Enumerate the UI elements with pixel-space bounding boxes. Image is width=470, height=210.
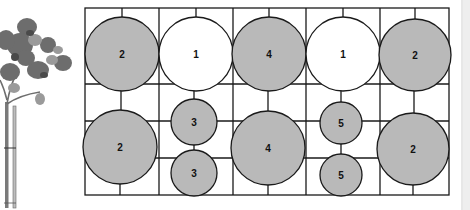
plant-circle-c3: 4: [232, 17, 306, 91]
plant-circle-c8: 3: [171, 150, 217, 196]
plant-circle-c10: 5: [320, 102, 362, 144]
plant-circle-c5: 2: [379, 19, 451, 91]
plant-label: 4: [266, 49, 272, 60]
plant-label: 3: [191, 168, 197, 179]
plant-label: 2: [119, 49, 125, 60]
planting-diagram: 214122334552: [0, 0, 470, 210]
plant-label: 1: [193, 49, 199, 60]
right-margin-bar: [463, 0, 470, 210]
plant-circle-c6: 2: [83, 110, 157, 184]
plant-circle-c12: 2: [377, 113, 449, 185]
plant-label: 2: [410, 144, 416, 155]
plant-circles: 214122334552: [83, 17, 451, 196]
plant-circle-c2: 1: [159, 17, 233, 91]
plant-circle-c7: 3: [171, 99, 217, 145]
plant-label: 4: [265, 143, 271, 154]
plant-label: 2: [412, 50, 418, 61]
plant-label: 5: [338, 170, 344, 181]
plant-label: 5: [338, 118, 344, 129]
plant-circle-c4: 1: [306, 17, 380, 91]
plant-label: 2: [117, 142, 123, 153]
plant-label: 3: [191, 117, 197, 128]
plant-circle-c9: 4: [231, 111, 305, 185]
tree-illustration-icon: [0, 18, 72, 208]
plant-circle-c1: 2: [85, 17, 159, 91]
plant-label: 1: [340, 49, 346, 60]
plant-circle-c11: 5: [320, 154, 362, 196]
